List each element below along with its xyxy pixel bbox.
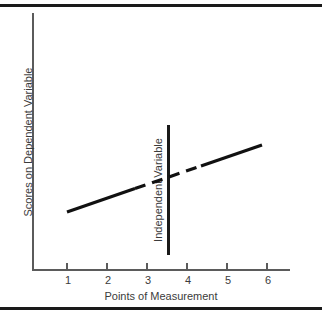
trend-line-segment-interrupted xyxy=(135,166,201,189)
trend-line-segment-pre xyxy=(67,189,135,212)
trend-line-group xyxy=(0,0,322,316)
chart-figure: 1 2 3 4 5 6 Points of Measurement Scores… xyxy=(0,0,322,316)
trend-line-segment-post xyxy=(201,145,262,166)
